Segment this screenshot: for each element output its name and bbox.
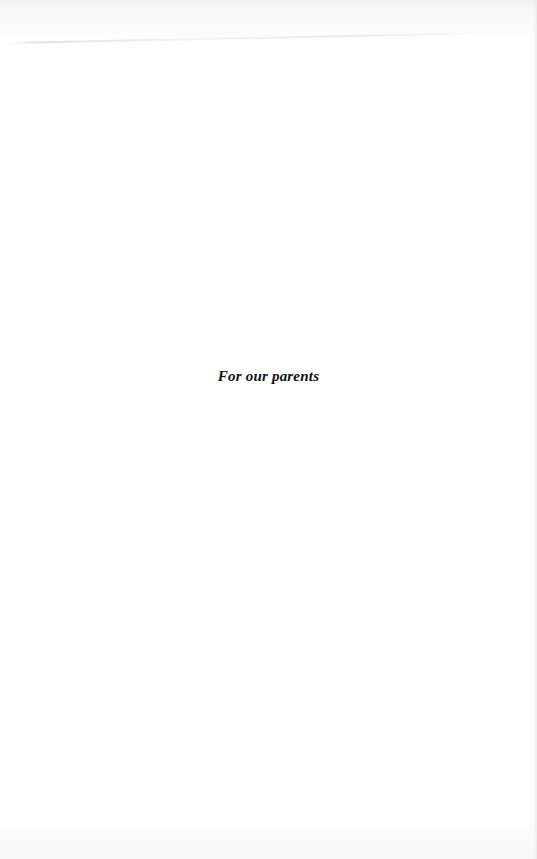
- scan-edge-top: [0, 0, 537, 8]
- dedication-text: For our parents: [0, 368, 537, 385]
- bleed-through-mark: [10, 32, 490, 44]
- scan-edge-right: [533, 0, 537, 859]
- book-page: For our parents: [0, 0, 537, 859]
